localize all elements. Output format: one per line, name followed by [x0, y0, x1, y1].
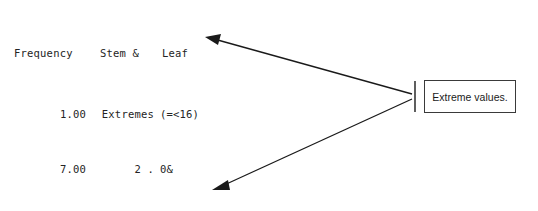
cell-stem: Extremes — [86, 108, 160, 122]
table-row: 7.002 .0& — [14, 163, 395, 177]
extreme-values-callout: Extreme values. — [424, 80, 516, 113]
cell-frequency: 7.00 — [14, 163, 86, 177]
column-header-leaf: Leaf — [162, 47, 188, 61]
column-header-stem: Stem & — [100, 47, 162, 61]
cell-leaf: 0& — [160, 163, 173, 177]
table-header-row: FrequencyStem &Leaf — [14, 47, 395, 61]
stem-and-leaf-plot: FrequencyStem &Leaf 1.00Extremes(=<16) 7… — [0, 0, 420, 211]
cell-frequency: 1.00 — [14, 108, 86, 122]
cell-leaf: (=<16) — [160, 108, 199, 122]
column-header-frequency: Frequency — [14, 47, 100, 61]
cell-stem: 2 . — [86, 163, 160, 177]
table-row: 1.00Extremes(=<16) — [14, 108, 395, 122]
stem-and-leaf-table: FrequencyStem &Leaf 1.00Extremes(=<16) 7… — [14, 6, 395, 211]
callout-label: Extreme values. — [432, 91, 507, 103]
